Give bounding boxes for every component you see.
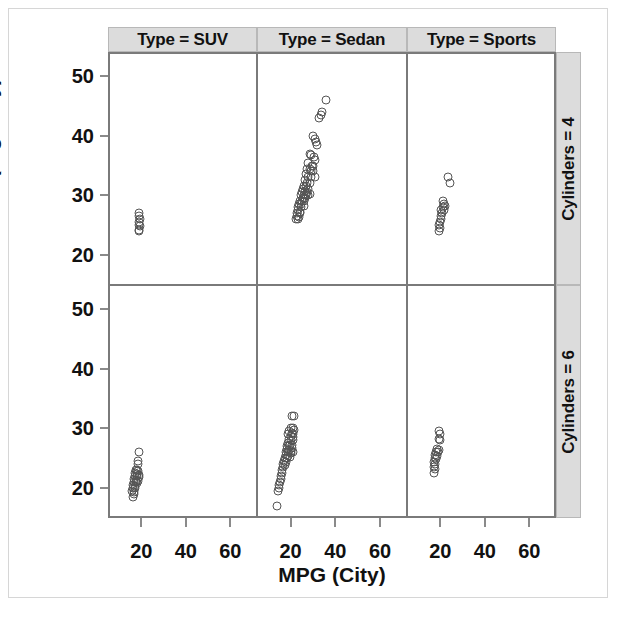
data-point	[314, 113, 323, 122]
panel-suv-cyl4	[108, 52, 257, 285]
x-tick-label: 20	[130, 540, 152, 563]
x-axis-label: MPG (City)	[108, 563, 556, 587]
y-tick-label: 20	[48, 244, 94, 267]
panel-sedan-cyl4	[257, 52, 407, 285]
panel-sports-cyl4	[407, 52, 556, 285]
y-axis-label: MPG (Highway)	[0, 25, 2, 285]
data-point	[135, 227, 144, 236]
y-tick-mark	[100, 308, 108, 310]
x-tick-label: 20	[279, 540, 301, 563]
data-point	[128, 493, 137, 502]
y-tick-mark	[100, 194, 108, 196]
panel-suv-cyl6	[108, 285, 257, 518]
row-strip-cyl6-label: Cylinders = 6	[559, 350, 579, 454]
y-tick-label: 50	[48, 64, 94, 87]
data-point	[313, 140, 322, 149]
col-strip-sedan: Type = Sedan	[257, 27, 407, 52]
y-tick-label: 30	[48, 417, 94, 440]
col-strip-sedan-label: Type = Sedan	[279, 30, 385, 50]
y-tick-mark	[100, 487, 108, 489]
data-point	[294, 215, 303, 224]
y-tick-mark	[100, 135, 108, 137]
row-divider-1	[108, 284, 556, 286]
y-tick-label: 50	[48, 297, 94, 320]
data-point	[446, 179, 455, 188]
y-tick-mark	[100, 368, 108, 370]
y-tick-label: 30	[48, 184, 94, 207]
x-tick-mark	[185, 518, 187, 527]
x-tick-label: 60	[518, 540, 540, 563]
x-tick-mark	[439, 518, 441, 527]
x-tick-mark	[334, 518, 336, 527]
panel-sports-cyl6	[407, 285, 556, 518]
panel-sedan-cyl6	[257, 285, 407, 518]
x-tick-label: 40	[324, 540, 346, 563]
y-tick-mark	[100, 75, 108, 77]
y-tick-mark	[100, 254, 108, 256]
col-strip-suv-label: Type = SUV	[137, 30, 228, 50]
y-tick-label: 40	[48, 357, 94, 380]
row-strip-cyl4-label: Cylinders = 4	[559, 117, 579, 221]
x-tick-label: 60	[369, 540, 391, 563]
y-tick-label: 20	[48, 477, 94, 500]
x-tick-mark	[528, 518, 530, 527]
x-tick-mark	[484, 518, 486, 527]
y-tick-mark	[100, 427, 108, 429]
col-strip-sports-label: Type = Sports	[427, 30, 536, 50]
data-point	[135, 448, 144, 457]
x-tick-label: 40	[474, 540, 496, 563]
data-point	[274, 487, 283, 496]
x-tick-mark	[379, 518, 381, 527]
chart-screenshot: Type = SUV Type = Sedan Type = Sports Cy…	[0, 0, 619, 640]
y-tick-label: 40	[48, 124, 94, 147]
data-point	[273, 502, 282, 511]
x-tick-label: 60	[219, 540, 241, 563]
data-point	[435, 436, 444, 445]
row-strip-cyl4: Cylinders = 4	[556, 52, 581, 285]
data-point	[289, 412, 298, 421]
x-tick-mark	[229, 518, 231, 527]
x-tick-label: 40	[175, 540, 197, 563]
x-tick-mark	[140, 518, 142, 527]
row-strip-cyl6: Cylinders = 6	[556, 285, 581, 518]
data-point	[430, 469, 439, 478]
x-tick-label: 20	[429, 540, 451, 563]
x-tick-mark	[290, 518, 292, 527]
data-point	[435, 227, 444, 236]
data-point	[322, 95, 331, 104]
col-strip-sports: Type = Sports	[407, 27, 556, 52]
col-strip-suv: Type = SUV	[108, 27, 257, 52]
